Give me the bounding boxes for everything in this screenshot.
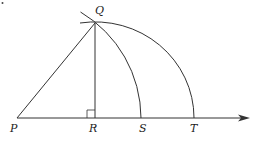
right-angle-marker [87, 110, 95, 118]
label-q: Q [95, 4, 104, 17]
geometry-diagram: Q P R S T [0, 0, 261, 142]
arc-qt [80, 22, 194, 118]
arc-qs [81, 12, 142, 118]
corner-dot [2, 2, 4, 4]
label-t: T [190, 122, 199, 135]
label-r: R [88, 122, 97, 135]
label-s: S [139, 122, 147, 135]
label-p: P [9, 122, 18, 135]
segment-pq [17, 23, 95, 118]
